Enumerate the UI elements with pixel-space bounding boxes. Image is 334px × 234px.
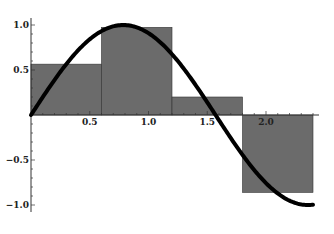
- bar-1: [31, 64, 102, 115]
- y-tick-label: 1.0: [13, 20, 29, 30]
- y-tick-label: 0.5: [13, 65, 29, 75]
- x-tick-label: 1.0: [141, 117, 157, 127]
- bar-2: [102, 27, 173, 115]
- chart-canvas: 0.51.01.52.0−1.0−0.50.51.0: [0, 0, 334, 234]
- riemann-sum-chart: 0.51.01.52.0−1.0−0.50.51.0: [0, 0, 334, 234]
- y-tick-label: −0.5: [6, 155, 29, 165]
- x-tick-label: 2.0: [258, 117, 274, 127]
- y-tick-label: −1.0: [6, 200, 29, 210]
- bar-4: [243, 115, 314, 192]
- x-tick-label: 1.5: [199, 117, 215, 127]
- x-tick-label: 0.5: [82, 117, 98, 127]
